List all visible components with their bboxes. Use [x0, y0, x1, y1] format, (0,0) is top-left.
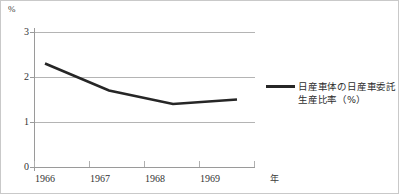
x-tick-mark-3	[199, 161, 200, 167]
gridline-y-3	[34, 32, 255, 33]
x-axis-line	[30, 167, 255, 168]
x-tick-label-1966: 1966	[25, 173, 65, 184]
gridline-y-1	[34, 122, 255, 123]
legend-entry-label: 日産車体の日産車委託 生産比率（%）	[298, 80, 396, 106]
legend-label-line-1: 日産車体の日産車委託	[298, 80, 396, 93]
y-tick-label-1: 1	[13, 117, 29, 127]
y-tick-label-2: 2	[13, 72, 29, 82]
legend-label-line-2: 生産比率（%）	[298, 93, 396, 106]
y-tick-label-0: 0	[13, 162, 29, 172]
legend-line-swatch-icon	[266, 85, 295, 88]
y-tick-label-3: 3	[13, 27, 29, 37]
x-tick-label-1967: 1967	[80, 173, 120, 184]
chart-legend: 日産車体の日産車委託 生産比率（%）	[266, 80, 399, 106]
x-axis-unit-label: 年	[270, 174, 279, 184]
x-tick-mark-2	[144, 161, 145, 167]
x-tick-mark-end	[254, 161, 255, 167]
x-tick-mark-1	[89, 161, 90, 167]
plot-area	[34, 32, 255, 167]
x-tick-label-1969: 1969	[190, 173, 230, 184]
y-axis-tick-labels: 3 2 1 0	[9, 1, 29, 194]
x-tick-label-1968: 1968	[135, 173, 175, 184]
y-axis-line	[34, 28, 35, 171]
legend-entry-nissan-shatai-ratio: 日産車体の日産車委託 生産比率（%）	[266, 80, 399, 106]
gridline-y-2	[34, 77, 255, 78]
x-tick-mark-start	[34, 161, 35, 167]
chart-figure: % 3 2 1 0 1966 1967 1968 1969 年 日産車体の	[0, 0, 399, 194]
